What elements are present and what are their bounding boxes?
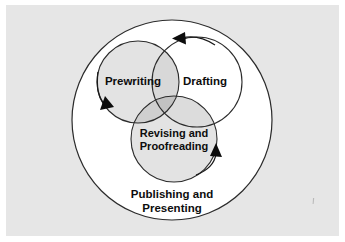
figure-root: Prewriting Drafting Revising and Proofre… <box>0 0 345 242</box>
label-drafting: Drafting <box>183 75 227 87</box>
label-revising-line1: Revising and <box>140 127 208 139</box>
label-publishing-line2: Presenting <box>142 202 201 214</box>
label-prewriting: Prewriting <box>105 75 161 87</box>
writing-process-venn-diagram: Prewriting Drafting Revising and Proofre… <box>0 0 345 242</box>
scan-speck <box>313 198 315 204</box>
label-publishing-line1: Publishing and <box>131 188 213 200</box>
label-revising-line2: Proofreading <box>140 140 208 152</box>
